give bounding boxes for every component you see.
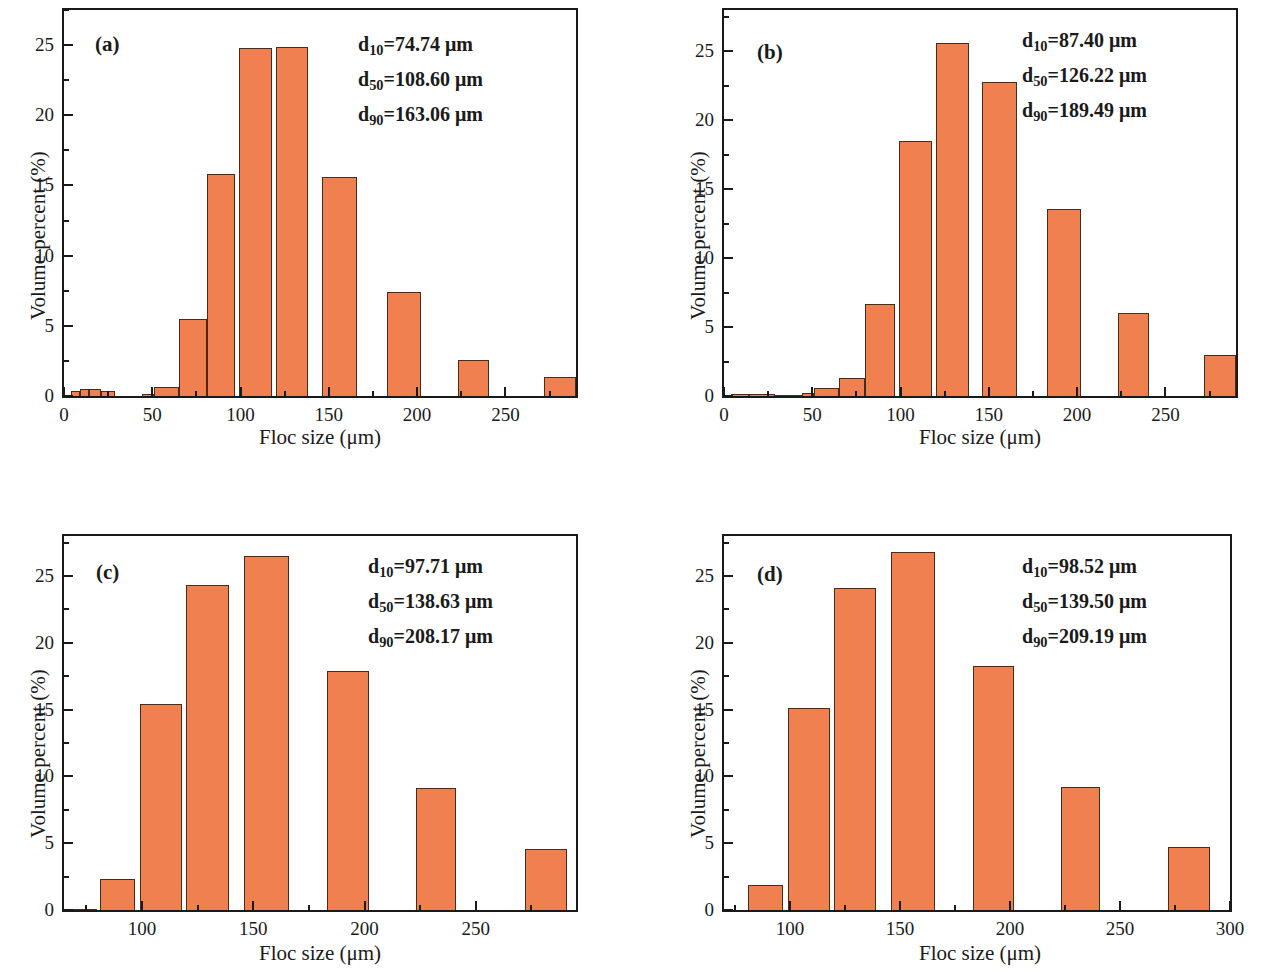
- y-tick-major: [724, 842, 733, 844]
- y-tick-minor: [64, 360, 69, 362]
- plot-area-b: [722, 8, 1238, 398]
- stats-b: d10=87.40 μm d50=126.22 μm d90=189.49 μm: [1022, 24, 1147, 128]
- histogram-bar: [749, 394, 775, 396]
- x-tick-minor: [549, 391, 551, 396]
- histogram-bar: [416, 788, 456, 910]
- x-tick-minor: [195, 391, 197, 396]
- bars-a: [64, 10, 576, 396]
- y-tick-major: [64, 909, 73, 911]
- x-tick-minor: [419, 905, 421, 910]
- x-tick-minor: [308, 905, 310, 910]
- y-tick-minor: [724, 542, 729, 544]
- yaxis-title-d: Volume percent (%): [686, 669, 711, 838]
- y-tick-minor: [724, 608, 729, 610]
- stat-d10-a: d10=74.74 μm: [358, 28, 483, 63]
- histogram-bar: [239, 48, 273, 396]
- histogram-bar: [387, 292, 421, 396]
- yaxis-title-c: Volume percent (%): [26, 669, 51, 838]
- x-tick-minor: [1120, 391, 1122, 396]
- x-tick-minor: [372, 391, 374, 396]
- x-tick-label: 100: [871, 405, 931, 424]
- x-tick-minor: [460, 391, 462, 396]
- x-tick-minor: [85, 905, 87, 910]
- x-tick-minor: [1032, 391, 1034, 396]
- x-tick-label: 250: [475, 405, 535, 424]
- histogram-bar: [327, 671, 369, 910]
- x-tick-label: 200: [980, 919, 1040, 938]
- x-tick-label: 50: [122, 405, 182, 424]
- x-tick-major: [1076, 387, 1078, 396]
- xaxis-title-d: Floc size (μm): [880, 941, 1080, 966]
- stat-d50-a: d50=108.60 μm: [358, 63, 483, 98]
- y-tick-major: [724, 709, 733, 711]
- x-tick-major: [364, 901, 366, 910]
- y-tick-minor: [64, 9, 69, 11]
- y-tick-label: 0: [20, 386, 54, 405]
- histogram-bar: [899, 141, 933, 396]
- y-tick-minor: [64, 79, 69, 81]
- y-tick-major: [724, 642, 733, 644]
- y-tick-minor: [724, 876, 729, 878]
- stat-d50-c: d50=138.63 μm: [368, 585, 493, 620]
- y-tick-minor: [64, 742, 69, 744]
- y-tick-major: [724, 326, 733, 328]
- x-tick-major: [151, 387, 153, 396]
- y-tick-minor: [64, 876, 69, 878]
- stat-d50-b: d50=126.22 μm: [1022, 59, 1147, 94]
- stats-a: d10=74.74 μm d50=108.60 μm d90=163.06 μm: [358, 28, 483, 132]
- x-tick-major: [988, 387, 990, 396]
- x-tick-label: 150: [223, 919, 283, 938]
- x-tick-minor: [1209, 391, 1211, 396]
- histogram-bar: [525, 849, 567, 910]
- x-tick-label: 50: [782, 405, 842, 424]
- histogram-bar: [276, 47, 308, 396]
- stat-d90-a: d90=163.06 μm: [358, 98, 483, 133]
- y-tick-major: [64, 44, 73, 46]
- x-tick-minor: [855, 391, 857, 396]
- stats-d: d10=98.52 μm d50=139.50 μm d90=209.19 μm: [1022, 550, 1147, 654]
- histogram-bar: [322, 177, 357, 396]
- x-tick-label: 200: [387, 405, 447, 424]
- histogram-bar: [731, 394, 749, 396]
- y-tick-minor: [724, 16, 729, 18]
- y-tick-minor: [724, 361, 729, 363]
- x-tick-minor: [107, 391, 109, 396]
- xaxis-title-b: Floc size (μm): [880, 425, 1080, 450]
- histogram-bar: [814, 388, 839, 396]
- yaxis-title-b: Volume percent (%): [686, 151, 711, 320]
- y-tick-major: [64, 709, 73, 711]
- y-tick-label: 0: [680, 900, 714, 919]
- y-tick-minor: [724, 742, 729, 744]
- y-tick-major: [64, 255, 73, 257]
- y-tick-minor: [724, 154, 729, 156]
- y-tick-major: [64, 395, 73, 397]
- y-tick-label: 20: [20, 633, 54, 652]
- panel-d: 0510152025100150200250300 (d) d10=98.52 …: [644, 520, 1288, 975]
- y-tick-label: 0: [680, 386, 714, 405]
- histogram-bar: [89, 389, 101, 396]
- histogram-bar: [1168, 847, 1210, 910]
- y-tick-label: 25: [20, 566, 54, 585]
- histogram-bar: [1204, 355, 1236, 396]
- y-tick-major: [724, 909, 733, 911]
- histogram-bar: [839, 378, 865, 396]
- y-tick-label: 25: [680, 41, 714, 60]
- histogram-bar: [973, 666, 1015, 910]
- y-tick-minor: [724, 675, 729, 677]
- y-tick-minor: [724, 85, 729, 87]
- x-tick-label: 250: [1135, 405, 1195, 424]
- y-tick-major: [64, 184, 73, 186]
- bars-b: [724, 10, 1236, 396]
- x-tick-minor: [530, 905, 532, 910]
- x-tick-major: [900, 387, 902, 396]
- stats-c: d10=97.71 μm d50=138.63 μm d90=208.17 μm: [368, 550, 493, 654]
- y-tick-major: [64, 842, 73, 844]
- y-tick-label: 20: [20, 105, 54, 124]
- x-tick-label: 100: [211, 405, 271, 424]
- x-tick-label: 150: [870, 919, 930, 938]
- stat-d10-c: d10=97.71 μm: [368, 550, 493, 585]
- histogram-bar: [775, 395, 801, 397]
- y-tick-label: 25: [680, 566, 714, 585]
- x-tick-minor: [197, 905, 199, 910]
- panel-b: 0510152025050100150200250 (b) d10=87.40 …: [644, 0, 1288, 470]
